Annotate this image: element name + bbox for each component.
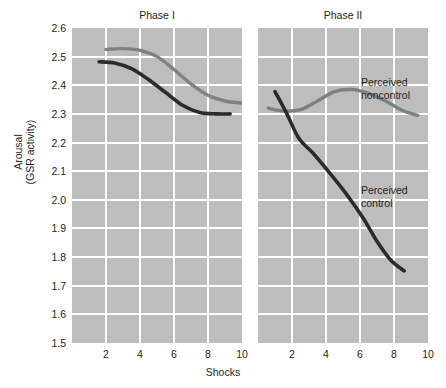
annotation-noncontrol-line1: Perceived xyxy=(361,76,410,89)
x-axis-tick-label: 8 xyxy=(391,348,397,360)
y-axis-tick-label: 2.0 xyxy=(36,194,66,206)
y-axis-tick-label: 2.3 xyxy=(36,108,66,120)
curves-phase1 xyxy=(72,28,242,343)
annotation-perceived-noncontrol: Perceived noncontrol xyxy=(361,76,410,101)
y-axis-label: Arousal (GSR activity) xyxy=(12,92,36,212)
y-axis-tick-label: 1.5 xyxy=(36,337,66,349)
x-axis-tick-label: 6 xyxy=(357,348,363,360)
panel-title-phase1: Phase I xyxy=(72,9,242,21)
series-line-control-phase2 xyxy=(275,92,404,271)
x-axis-tick-label: 2 xyxy=(289,348,295,360)
y-axis-label-line1: Arousal xyxy=(12,92,24,212)
y-axis-tick-label: 1.9 xyxy=(36,222,66,234)
plot-area-phase1 xyxy=(72,28,242,343)
x-axis-tick-label: 10 xyxy=(422,348,434,360)
annotation-control-line1: Perceived xyxy=(361,184,408,197)
series-line-control-phase1 xyxy=(99,62,230,114)
y-axis-tick-label: 2.6 xyxy=(36,22,66,34)
y-axis-label-line2: (GSR activity) xyxy=(24,92,36,212)
y-axis-tick-label: 1.8 xyxy=(36,251,66,263)
x-axis-tick-label: 4 xyxy=(137,348,143,360)
annotation-control-line2: control xyxy=(361,197,408,210)
y-axis-tick-label: 2.5 xyxy=(36,51,66,63)
annotation-noncontrol-line2: noncontrol xyxy=(361,89,410,102)
x-axis-tick-label: 4 xyxy=(323,348,329,360)
annotation-perceived-control: Perceived control xyxy=(361,184,408,209)
y-axis-tick-label: 1.6 xyxy=(36,308,66,320)
figure: Phase I Phase II 2.62.52.42.32.22.12.01.… xyxy=(0,0,446,388)
x-axis-tick-label: 6 xyxy=(171,348,177,360)
y-axis-tick-labels: 2.62.52.42.32.22.12.01.91.81.71.61.5 xyxy=(34,28,66,343)
x-axis-tick-label: 10 xyxy=(236,348,248,360)
y-axis-tick-label: 2.1 xyxy=(36,165,66,177)
x-axis-label: Shocks xyxy=(0,366,446,378)
y-axis-tick-label: 2.2 xyxy=(36,137,66,149)
y-axis-tick-label: 2.4 xyxy=(36,79,66,91)
x-axis-tick-label: 8 xyxy=(205,348,211,360)
panel-title-phase2: Phase II xyxy=(258,9,428,21)
series-line-noncontrol-phase1 xyxy=(106,49,242,103)
x-axis-tick-label: 2 xyxy=(103,348,109,360)
y-axis-tick-label: 1.7 xyxy=(36,280,66,292)
